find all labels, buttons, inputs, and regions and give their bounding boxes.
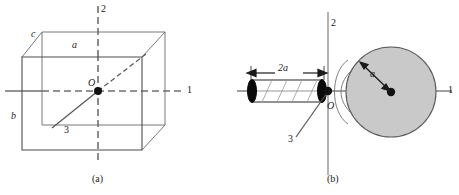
axis-1-label-a: 1 — [187, 84, 192, 95]
axis-3-label-b: 3 — [288, 133, 293, 144]
axis-1-label-b: 1 — [448, 84, 453, 95]
panel-b-graphics — [237, 12, 452, 175]
caption-a: (a) — [92, 173, 103, 184]
origin-label-a: O — [88, 77, 95, 88]
caption-b: (b) — [327, 173, 339, 184]
edge-label-a: a — [72, 39, 77, 50]
axis-3-label-a: 3 — [64, 124, 69, 135]
cylinder-body — [252, 80, 322, 102]
axis-2-label-b: 2 — [331, 17, 336, 28]
origin-dot-a — [94, 87, 102, 95]
figure-container: 2 1 3 O a b c 2 1 3 O 2a a (a) (b) — [0, 0, 459, 195]
edge-label-b: b — [11, 110, 16, 121]
origin-dot-b — [324, 87, 332, 95]
figure-canvas — [0, 0, 459, 195]
cylinder-cap-left — [248, 80, 257, 103]
edge-label-c: c — [31, 28, 35, 39]
axis-2-label-a: 2 — [101, 3, 106, 14]
sphere-radius-label: a — [370, 68, 375, 79]
origin-label-b: O — [327, 100, 334, 111]
cylinder-length-label: 2a — [278, 62, 288, 73]
